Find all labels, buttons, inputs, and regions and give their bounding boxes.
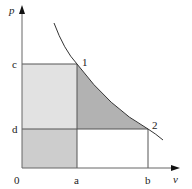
x-axis-label: v bbox=[173, 173, 178, 185]
region-under-curve bbox=[77, 64, 148, 129]
point-label-1: 1 bbox=[82, 56, 88, 68]
tick-label-c: c bbox=[12, 58, 17, 70]
pv-diagram: p v 0 c d a b 1 2 bbox=[0, 0, 192, 189]
tick-label-a: a bbox=[74, 174, 79, 186]
region-c-1-d bbox=[22, 64, 77, 129]
region-d-a-0 bbox=[22, 129, 77, 168]
origin-label: 0 bbox=[14, 174, 20, 186]
tick-label-b: b bbox=[145, 174, 151, 186]
y-axis-arrow-icon bbox=[19, 5, 25, 14]
tick-label-d: d bbox=[12, 123, 18, 135]
y-axis-label: p bbox=[8, 4, 15, 16]
x-axis-arrow-icon bbox=[171, 165, 180, 171]
point-label-2: 2 bbox=[152, 119, 158, 131]
